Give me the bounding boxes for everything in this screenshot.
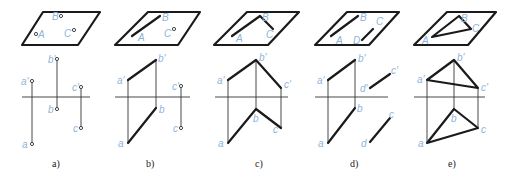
label-A: A [335, 35, 343, 46]
caption-d: d) [350, 158, 358, 170]
label-b: b [253, 113, 259, 124]
line-a-prime-b-prime [128, 60, 156, 80]
line-a-prime-b-prime [328, 60, 355, 80]
label-c-prime: c' [284, 79, 292, 90]
line-dc [370, 118, 390, 142]
label-c-prime: c' [172, 81, 180, 92]
label-d: d [361, 138, 367, 149]
label-b-prime: b' [457, 52, 466, 63]
label-B: B [360, 12, 367, 23]
label-a: a [418, 138, 424, 149]
line-AB [132, 16, 160, 36]
point-c-prime [179, 84, 182, 87]
lines-a-prime-b-prime-c-prime [228, 60, 281, 88]
label-C: C [472, 23, 480, 34]
panel-e: B A C b' a' c' b c a e) [414, 12, 496, 170]
label-c-prime: c' [481, 82, 489, 93]
label-b: b [357, 103, 363, 114]
plane-parallelogram [214, 12, 299, 45]
label-a: a [118, 138, 124, 149]
label-C: C [164, 28, 172, 39]
label-b: b [48, 104, 54, 115]
label-b: b [451, 113, 457, 124]
point-c [79, 126, 82, 129]
label-A: A [235, 33, 243, 44]
label-D: D [353, 35, 360, 46]
label-A: A [137, 32, 145, 43]
label-b-prime: b' [358, 53, 367, 64]
caption-e: e) [448, 158, 456, 170]
panel-d: B A C D b' a' c' d' b c d a d) [315, 12, 399, 170]
label-b-prime: b' [48, 54, 57, 65]
label-c: c [273, 124, 278, 135]
line-DC [362, 29, 373, 40]
label-B: B [461, 13, 468, 24]
point-C [172, 27, 175, 30]
label-B: B [162, 12, 169, 23]
point-b [55, 107, 58, 110]
label-b-prime: b' [259, 52, 268, 63]
label-a-prime: a' [117, 75, 126, 86]
point-a [30, 142, 33, 145]
point-c [179, 126, 182, 129]
caption-c: c) [255, 158, 263, 170]
panel-b: B A C b' a' c' b c a b) [115, 12, 200, 170]
caption-b: b) [146, 158, 154, 170]
line-d-prime-c-prime [370, 74, 390, 88]
line-ab [328, 108, 355, 143]
label-b: b [159, 104, 165, 115]
label-A: A [37, 29, 45, 40]
line-AB [331, 16, 358, 36]
label-c-prime: c' [72, 82, 80, 93]
label-a-prime: a' [417, 74, 426, 85]
panel-a: B A C b' a' c' b c a a) [21, 11, 100, 170]
point-a-prime [30, 79, 33, 82]
label-a: a [318, 138, 324, 149]
point-c-prime [79, 85, 82, 88]
label-c-prime: c' [391, 65, 399, 76]
point-B [59, 14, 62, 17]
triangle-a-prime-b-prime-c-prime [427, 60, 478, 88]
label-A: A [421, 35, 429, 46]
label-c: c [389, 109, 394, 120]
label-b-prime: b' [158, 53, 167, 64]
caption-a: a) [52, 158, 60, 170]
point-b-prime [55, 57, 58, 60]
label-a: a [22, 139, 28, 150]
label-c: c [481, 124, 486, 135]
label-C: C [376, 16, 384, 27]
label-d-prime: d' [360, 83, 369, 94]
panel-c: B A C b' a' c' b c a c) [214, 12, 299, 170]
label-c: c [73, 123, 78, 134]
label-c: c [173, 123, 178, 134]
label-C: C [266, 29, 274, 40]
label-a-prime: a' [317, 75, 326, 86]
label-B: B [52, 11, 59, 22]
line-ab [128, 108, 156, 143]
label-C: C [64, 28, 72, 39]
plane-representation-diagram: B A C b' a' c' b c a a) B A C b [0, 0, 509, 181]
label-B: B [262, 12, 269, 23]
label-a-prime: a' [217, 75, 226, 86]
label-a-prime: a' [21, 76, 30, 87]
point-C [72, 28, 75, 31]
label-a: a [218, 138, 224, 149]
